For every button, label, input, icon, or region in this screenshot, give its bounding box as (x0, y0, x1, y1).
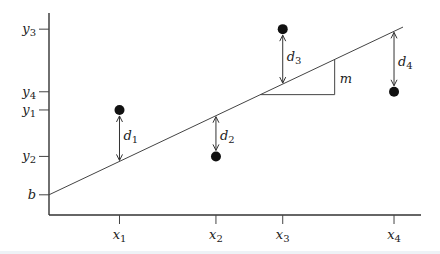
y-ticks: y3y4y1y2b (21, 21, 49, 202)
residual-label-p1: d1 (123, 128, 138, 145)
residuals: d1d2d3d4 (116, 32, 412, 160)
diagram-canvas: y3y4y1y2b x1x2x3x4 m d1d2d3d4 (0, 0, 440, 254)
data-points (114, 24, 399, 161)
axes (49, 13, 421, 215)
regression-line (49, 27, 403, 195)
x-ticks: x1x2x3x4 (113, 215, 401, 244)
data-point-p4 (389, 87, 399, 97)
y-tick-label-y3: y3 (21, 21, 36, 38)
y-tick-label-b: b (28, 187, 36, 202)
residual-p3: d3 (280, 35, 302, 83)
residual-label-p3: d3 (287, 49, 302, 66)
y-tick-label-y2: y2 (21, 148, 36, 165)
residual-label-p2: d2 (220, 128, 235, 145)
x-tick-label-x2: x2 (209, 227, 223, 244)
x-tick-label-x3: x3 (276, 227, 290, 244)
residual-label-p4: d4 (398, 54, 413, 71)
x-tick-label-x4: x4 (387, 227, 401, 244)
slope-label: m (340, 71, 352, 86)
x-tick-label-x1: x1 (113, 227, 127, 244)
data-point-p1 (114, 105, 124, 115)
data-point-p2 (211, 151, 221, 161)
y-tick-label-y4: y4 (21, 84, 36, 101)
residual-p2: d2 (213, 117, 235, 151)
regression-diagram: y3y4y1y2b x1x2x3x4 m d1d2d3d4 (0, 0, 440, 254)
y-tick-label-y1: y1 (21, 102, 36, 119)
residual-p4: d4 (391, 32, 413, 85)
slope-triangle: m (260, 59, 352, 94)
data-point-p3 (278, 24, 288, 34)
